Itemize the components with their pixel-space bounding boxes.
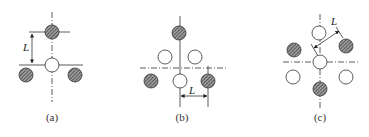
hatched-hole: [339, 39, 353, 53]
bolt-pattern-figure: L L L (a) (b) (c): [0, 0, 369, 137]
hatched-hole: [144, 74, 158, 88]
hatched-hole: [19, 68, 33, 82]
panel-b: [140, 16, 228, 107]
caption-c: (c): [314, 111, 326, 123]
dimension-label-c: L: [331, 15, 337, 27]
open-hole: [45, 58, 59, 72]
panel-c: [283, 14, 358, 108]
hatched-hole: [172, 26, 186, 40]
caption-a: (a): [46, 111, 58, 123]
open-hole: [313, 55, 327, 69]
open-hole: [173, 74, 187, 88]
caption-b: (b): [176, 111, 189, 123]
hatched-hole: [201, 74, 215, 88]
open-hole: [188, 50, 202, 64]
panel-a: [19, 12, 83, 102]
hatched-hole: [287, 43, 301, 57]
dimension-label-a: L: [23, 41, 29, 53]
open-hole: [339, 70, 353, 84]
hatched-hole: [313, 82, 327, 96]
hatched-hole: [45, 25, 59, 39]
open-hole: [158, 50, 172, 64]
dimension-label-b: L: [189, 84, 195, 96]
open-hole: [286, 70, 300, 84]
open-hole: [312, 26, 326, 40]
hatched-hole: [68, 68, 82, 82]
